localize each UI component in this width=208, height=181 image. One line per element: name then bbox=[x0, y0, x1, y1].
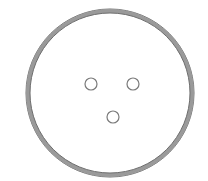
outer-circle-inner-edge bbox=[30, 13, 190, 173]
hole-bottom bbox=[107, 111, 119, 123]
outer-rim bbox=[26, 9, 194, 177]
hole-left bbox=[85, 78, 97, 90]
outer-circle-ring bbox=[28, 11, 192, 175]
hole-right bbox=[127, 78, 139, 90]
button-diagram bbox=[0, 0, 208, 181]
holes-group bbox=[85, 78, 139, 123]
diagram-canvas bbox=[0, 0, 208, 181]
